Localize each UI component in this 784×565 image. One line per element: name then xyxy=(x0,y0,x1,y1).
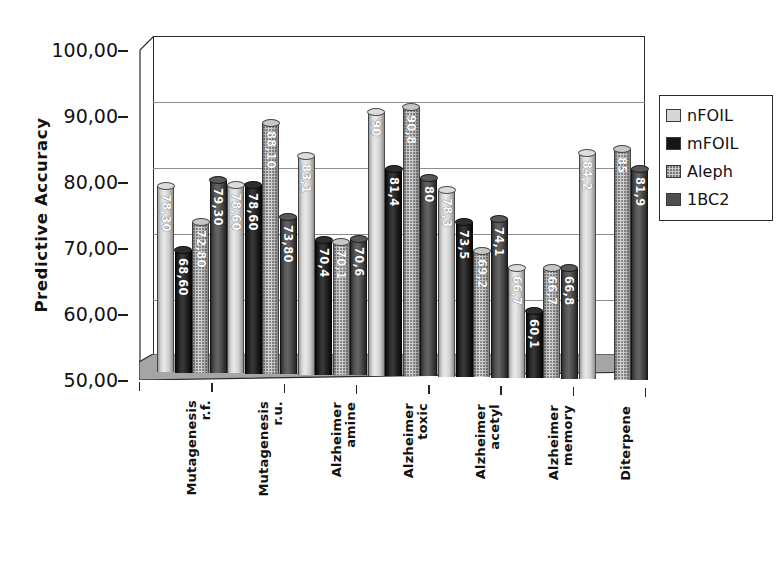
bar-cap xyxy=(385,165,403,173)
bar-body xyxy=(333,242,350,375)
x-label-line2: toxic xyxy=(416,403,430,565)
bar-1bc2-1: 73,80 xyxy=(280,217,297,374)
x-label-line1: Diterpene xyxy=(618,406,633,481)
x-label-line1: Alzheimer xyxy=(546,405,561,480)
bar-body xyxy=(210,180,227,373)
bar-mfoil-2: 70,4 xyxy=(315,240,332,375)
y-axis-tick: 70,00 xyxy=(10,248,128,249)
x-axis-label-4: Alzheimeracetyl xyxy=(474,404,500,565)
bar-body xyxy=(262,123,279,374)
bar-body xyxy=(280,217,297,374)
bar-aleph-3: 90,8 xyxy=(403,107,420,376)
y-tick-mark xyxy=(118,248,128,250)
bar-cap xyxy=(438,186,456,194)
bar-cap xyxy=(367,108,385,116)
y-tick-mark xyxy=(118,50,128,52)
bar-cap xyxy=(174,246,192,254)
bar-nfoil-6: 84,2 xyxy=(579,153,596,379)
x-axis-label-6: Diterpene xyxy=(619,406,645,565)
x-label-line2: r.f. xyxy=(199,400,213,565)
y-tick-label: 70,00 xyxy=(64,237,118,259)
bar-body xyxy=(350,239,367,375)
legend-label: nFOIL xyxy=(687,106,733,125)
legend-label: 1BC2 xyxy=(687,190,730,209)
bar-mfoil-1: 78,60 xyxy=(245,185,262,374)
bar-aleph-0: 72,80 xyxy=(192,222,209,372)
x-label-line1: Alzheimer xyxy=(401,403,416,478)
bar-body xyxy=(245,185,262,374)
bar-1bc2-0: 79,30 xyxy=(210,180,227,373)
bar-nfoil-5: 66,7 xyxy=(508,268,525,378)
bar-cap xyxy=(157,182,175,190)
chart-legend: nFOILmFOILAleph1BC2 xyxy=(659,95,773,221)
legend-item-aleph[interactable]: Aleph xyxy=(666,157,768,185)
bar-body xyxy=(438,190,455,377)
bar-cap xyxy=(455,218,473,226)
bar-body xyxy=(192,222,209,372)
bar-1bc2-6: 81,9 xyxy=(631,169,648,380)
x-tick-mark xyxy=(139,382,140,391)
bar-cap xyxy=(613,145,631,153)
bar-1bc2-4: 74,1 xyxy=(491,219,508,378)
bar-body xyxy=(561,268,578,379)
bar-aleph-4: 69,2 xyxy=(473,251,490,378)
bar-body xyxy=(403,107,420,376)
bar-nfoil-4: 78,3 xyxy=(438,190,455,377)
x-axis-label-1: Mutagenesisr.u. xyxy=(257,401,283,565)
y-tick-mark xyxy=(118,314,128,316)
bar-body xyxy=(385,169,402,376)
bar-mfoil-5: 60,1 xyxy=(526,311,543,378)
x-axis-label-0: Mutagenesisr.f. xyxy=(185,400,211,565)
y-tick-label: 60,00 xyxy=(64,303,118,325)
x-axis-category-labels: Mutagenesisr.f.Mutagenesisr.u.Alzheimera… xyxy=(139,392,645,562)
legend-label: Aleph xyxy=(687,162,733,181)
x-tick-mark xyxy=(211,383,212,392)
x-label-line2: r.u. xyxy=(271,401,285,565)
y-tick-label: 80,00 xyxy=(64,171,118,193)
x-label-line2: acetyl xyxy=(488,404,502,565)
bar-series-container: 78,3068,6072,8079,3078,6078,6088,1073,80… xyxy=(139,36,645,380)
legend-item-bc2[interactable]: 1BC2 xyxy=(666,185,768,213)
legend-swatch-icon xyxy=(666,193,681,206)
bar-body xyxy=(543,268,560,378)
y-tick-label: 100,00 xyxy=(52,39,118,61)
x-label-line1: Alzheimer xyxy=(329,402,344,477)
x-tick-mark xyxy=(645,388,646,397)
bar-body xyxy=(526,311,543,378)
y-axis-tick: 80,00 xyxy=(10,182,128,183)
bar-body xyxy=(175,250,192,373)
bar-cap xyxy=(209,176,227,184)
x-axis-label-5: Alzheimermemory xyxy=(547,405,573,565)
bar-nfoil-2: 83,1 xyxy=(298,156,315,374)
legend-swatch-icon xyxy=(666,137,681,150)
bar-aleph-6: 85 xyxy=(614,149,631,380)
bar-1bc2-2: 70,6 xyxy=(350,239,367,375)
bar-body xyxy=(227,185,244,374)
legend-item-mfoil[interactable]: mFOIL xyxy=(666,129,768,157)
y-axis-tick: 100,00 xyxy=(10,50,128,51)
bar-body xyxy=(298,156,315,374)
bar-cap xyxy=(508,264,526,272)
y-axis-tick: 50,00 xyxy=(10,380,128,381)
x-axis-label-3: Alzheimertoxic xyxy=(402,403,428,565)
x-label-line2: memory xyxy=(560,405,574,565)
bar-cap xyxy=(262,119,280,127)
x-label-line2: amine xyxy=(343,402,357,565)
y-tick-label: 90,00 xyxy=(64,105,118,127)
bar-body xyxy=(579,153,596,379)
bar-aleph-1: 88,10 xyxy=(262,123,279,374)
bar-nfoil-1: 78,60 xyxy=(227,185,244,374)
bar-body xyxy=(508,268,525,378)
legend-swatch-icon xyxy=(666,109,681,122)
bar-body xyxy=(315,240,332,375)
bar-1bc2-5: 66,8 xyxy=(561,268,578,379)
y-axis-tick: 60,00 xyxy=(10,314,128,315)
bar-mfoil-4: 73,5 xyxy=(456,222,473,377)
bar-aleph-2: 70,1 xyxy=(333,242,350,375)
bar-body xyxy=(157,186,174,373)
bar-body xyxy=(614,149,631,380)
legend-item-nfoil[interactable]: nFOIL xyxy=(666,101,768,129)
y-axis-tick: 90,00 xyxy=(10,116,128,117)
bar-cap xyxy=(227,181,245,189)
y-tick-mark xyxy=(118,182,128,184)
